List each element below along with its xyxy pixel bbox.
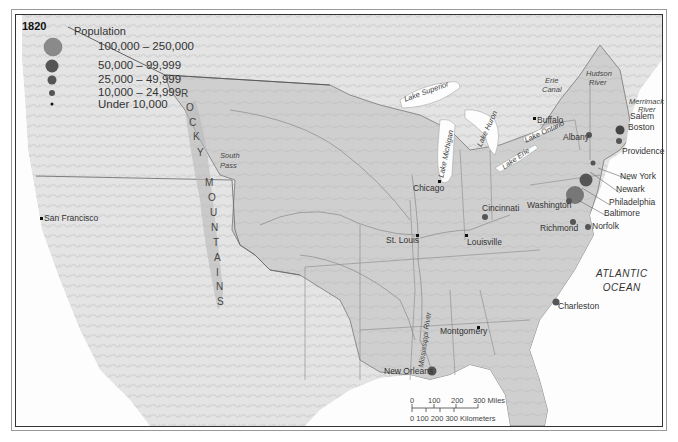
legend-title: Population — [74, 25, 126, 37]
city-label-baltimore: Baltimore — [604, 209, 640, 218]
legend-item-50k-99k: 50,000 – 99,999 — [98, 59, 181, 71]
city-label-san-francisco: San Francisco — [44, 214, 98, 223]
scale-miles-100: 100 — [428, 396, 441, 405]
city-label-st-louis: St. Louis — [386, 236, 419, 245]
label-erie-canal-2: Canal — [542, 86, 562, 94]
city-label-richmond: Richmond — [540, 224, 578, 233]
city-label-washington: Washington — [527, 201, 572, 210]
city-label-philadelphia: Philadelphia — [609, 198, 655, 207]
legend-item-100k-250k: 100,000 – 250,000 — [98, 40, 194, 52]
scale-miles-300: 300 Miles — [473, 396, 505, 405]
legend-item-10k-24k: 10,000 – 24,999 — [98, 86, 181, 98]
legend-item-under-10k: Under 10,000 — [98, 98, 168, 110]
city-label-louisville: Louisville — [467, 238, 502, 247]
city-label-albany: Albany — [563, 133, 589, 142]
label-hudson-river-2: River — [589, 79, 607, 87]
scale-miles-0: 0 — [410, 396, 414, 405]
label-south-pass-2: Pass — [220, 162, 237, 170]
legend-item-25k-49k: 25,000 – 49,999 — [98, 73, 181, 85]
city-label-new-york: New York — [620, 172, 656, 181]
scale-miles-200: 200 — [451, 396, 464, 405]
map-year: 1820 — [22, 20, 46, 32]
scale-kilometers: 0 100 200 300 Kilometers — [410, 414, 495, 423]
label-merrimack-river-2: River — [638, 106, 656, 114]
city-label-newark: Newark — [616, 185, 645, 194]
label-atlantic-ocean: ATLANTIC OCEAN — [596, 267, 648, 295]
city-label-cincinnati: Cincinnati — [482, 204, 519, 213]
city-label-new-orleans: New Orleans — [384, 367, 433, 376]
label-erie-canal-1: Erie — [545, 77, 558, 85]
city-label-montgomery: Montgomery — [440, 327, 487, 336]
city-label-chicago: Chicago — [413, 184, 444, 193]
city-label-providence: Providence — [622, 147, 665, 156]
label-south-pass-1: South — [220, 152, 240, 160]
city-label-boston: Boston — [628, 123, 654, 132]
label-hudson-river-1: Hudson — [586, 70, 612, 78]
city-label-norfolk: Norfolk — [592, 222, 619, 231]
city-label-charleston: Charleston — [558, 302, 599, 311]
